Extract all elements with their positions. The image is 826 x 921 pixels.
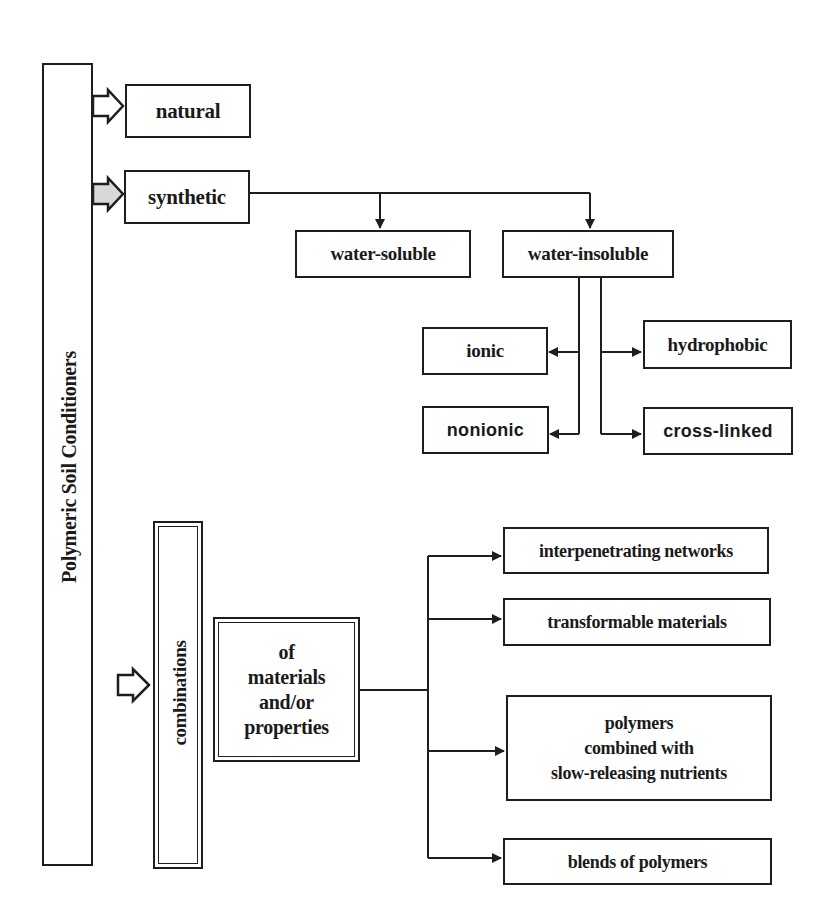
polymers-nutrients-line-3: slow-releasing nutrients (551, 761, 727, 786)
qualifier-line-1: of (278, 640, 294, 665)
node-ionic-label: ionic (466, 339, 504, 363)
node-synthetic: synthetic (124, 170, 250, 224)
qualifier-line-3: and/or (259, 690, 314, 715)
node-natural: natural (125, 84, 251, 138)
node-combinations-qualifier: of materials and/or properties (213, 617, 360, 762)
block-arrow-natural-icon (93, 90, 123, 122)
polymers-nutrients-line-2: combined with (584, 736, 694, 761)
node-water-soluble-label: water-soluble (330, 242, 435, 266)
node-synthetic-label: synthetic (148, 185, 226, 209)
polymers-nutrients-line-1: polymers (605, 711, 674, 736)
node-interpenetrating-networks: interpenetrating networks (503, 527, 769, 574)
node-water-insoluble-label: water-insoluble (528, 242, 648, 266)
node-water-soluble: water-soluble (295, 230, 471, 278)
node-ionic: ionic (422, 327, 548, 375)
block-arrow-synthetic-icon (93, 178, 123, 210)
node-combinations-label: combinations (168, 623, 192, 763)
node-cross-linked-label: cross-linked (663, 419, 773, 443)
block-arrow-combinations-icon (118, 669, 149, 701)
qualifier-line-4: properties (244, 715, 328, 740)
node-natural-label: natural (156, 99, 220, 123)
node-blends-of-polymers: blends of polymers (503, 838, 772, 885)
root-box: Polymeric Soil Conditioners (42, 63, 93, 866)
node-hydrophobic: hydrophobic (643, 320, 792, 369)
node-hydrophobic-label: hydrophobic (668, 333, 768, 357)
node-transformable-materials: transformable materials (503, 598, 771, 646)
node-nonionic: nonionic (422, 406, 549, 454)
node-cross-linked: cross-linked (643, 407, 793, 455)
node-interpenetrating-networks-label: interpenetrating networks (539, 539, 733, 563)
root-label: Polymeric Soil Conditioners (57, 302, 81, 632)
node-transformable-materials-label: transformable materials (547, 610, 727, 634)
qualifier-line-2: materials (248, 665, 325, 690)
node-nonionic-label: nonionic (447, 418, 524, 442)
node-water-insoluble: water-insoluble (502, 230, 674, 278)
node-combinations: combinations (153, 521, 203, 869)
node-polymers-nutrients: polymers combined with slow-releasing nu… (506, 695, 772, 801)
node-blends-of-polymers-label: blends of polymers (568, 850, 708, 874)
